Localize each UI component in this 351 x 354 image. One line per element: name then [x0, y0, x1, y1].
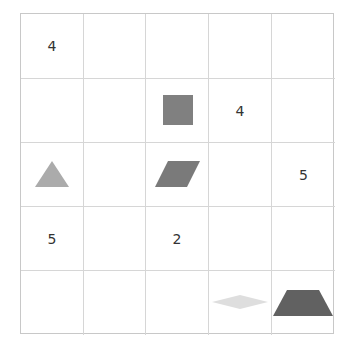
- cell-r4-c4[interactable]: [272, 271, 335, 335]
- cell-r2-c0[interactable]: [21, 143, 84, 207]
- cell-r4-c2[interactable]: [146, 271, 209, 335]
- cell-r0-c4[interactable]: [272, 14, 335, 79]
- trapezoid-icon: [273, 290, 333, 316]
- cell-r2-c4[interactable]: 5: [272, 143, 335, 207]
- puzzle-grid: 4 4 5 5 2: [20, 13, 334, 334]
- cell-number: 5: [48, 231, 57, 247]
- cell-r0-c3[interactable]: [209, 14, 272, 79]
- cell-r3-c0[interactable]: 5: [21, 207, 84, 271]
- cell-r2-c3[interactable]: [209, 143, 272, 207]
- cell-r2-c1[interactable]: [84, 143, 146, 207]
- cell-r1-c0[interactable]: [21, 79, 84, 143]
- cell-r4-c1[interactable]: [84, 271, 146, 335]
- cell-r0-c0[interactable]: 4: [21, 14, 84, 79]
- cell-r0-c1[interactable]: [84, 14, 146, 79]
- cell-r3-c2[interactable]: 2: [146, 207, 209, 271]
- cell-r1-c3[interactable]: 4: [209, 79, 272, 143]
- cell-number: 2: [173, 231, 182, 247]
- cell-r2-c2[interactable]: [146, 143, 209, 207]
- cell-r4-c3[interactable]: [209, 271, 272, 335]
- square-icon: [163, 95, 193, 125]
- cell-r1-c1[interactable]: [84, 79, 146, 143]
- cell-number: 4: [48, 38, 57, 54]
- cell-r3-c1[interactable]: [84, 207, 146, 271]
- parallelogram-icon: [155, 161, 201, 189]
- cell-r3-c4[interactable]: [272, 207, 335, 271]
- cell-number: 4: [236, 103, 245, 119]
- cell-r1-c4[interactable]: [272, 79, 335, 143]
- cell-r1-c2[interactable]: [146, 79, 209, 143]
- cell-number: 5: [299, 167, 308, 183]
- diamond-icon: [212, 295, 268, 309]
- cell-r4-c0[interactable]: [21, 271, 84, 335]
- cell-r3-c3[interactable]: [209, 207, 272, 271]
- cell-r0-c2[interactable]: [146, 14, 209, 79]
- triangle-icon: [35, 161, 69, 189]
